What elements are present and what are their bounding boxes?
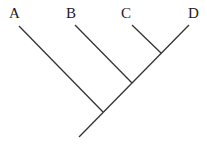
taxon-label-a: A [9, 6, 20, 21]
tree-lines [0, 0, 207, 147]
branch-c [132, 25, 161, 53]
taxon-label-c: C [121, 6, 131, 21]
cladogram-diagram: A B C D [0, 0, 207, 147]
trunk-line [79, 25, 189, 137]
taxon-label-d: D [188, 6, 199, 21]
branch-a [19, 26, 103, 112]
taxon-label-b: B [66, 6, 76, 21]
branch-b [75, 25, 132, 83]
